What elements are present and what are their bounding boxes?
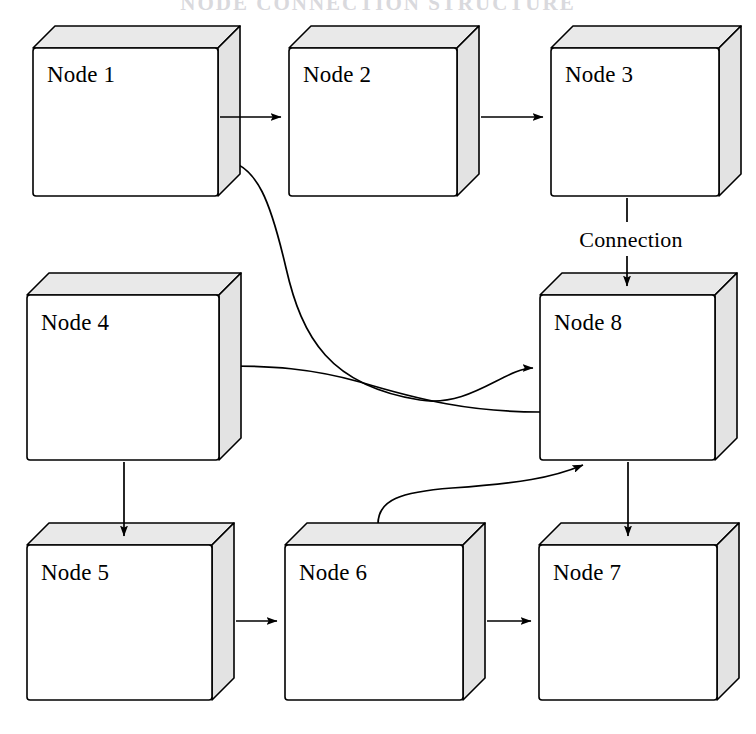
node-box-node6[interactable]: Node 6 <box>285 523 485 700</box>
node-box-node7[interactable]: Node 7 <box>539 523 739 700</box>
node-diagram-svg: Node 1 Node 2 Node 3 Node 4 <box>0 0 756 734</box>
node-box-node2[interactable]: Node 2 <box>289 26 479 196</box>
edge-label-connection: Connection <box>579 227 682 252</box>
node-box-node8[interactable]: Node 8 <box>540 273 737 460</box>
node-label: Node 3 <box>565 62 633 87</box>
node-label: Node 1 <box>47 62 115 87</box>
node-label: Node 8 <box>554 310 622 335</box>
edge-node6-to-node8 <box>378 465 583 524</box>
node-box-node1[interactable]: Node 1 <box>33 26 240 196</box>
node-label: Node 6 <box>299 560 367 585</box>
node-label: Node 2 <box>303 62 371 87</box>
node-box-node4[interactable]: Node 4 <box>27 273 241 460</box>
edge-node8-to-node4 <box>228 366 540 412</box>
node-box-node3[interactable]: Node 3 <box>551 26 741 196</box>
diagram-canvas: NODE CONNECTION STRUCTURE Node 1 <box>0 0 756 734</box>
node-box-node5[interactable]: Node 5 <box>27 523 234 700</box>
node-label: Node 5 <box>41 560 109 585</box>
node-label: Node 4 <box>41 310 110 335</box>
node-label: Node 7 <box>553 560 621 585</box>
